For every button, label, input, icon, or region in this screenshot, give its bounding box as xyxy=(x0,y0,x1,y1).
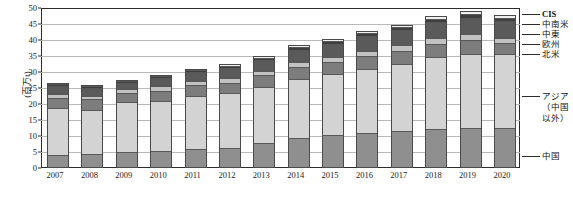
x-axis-tick-label: 2019 xyxy=(458,170,478,186)
bar-segment[interactable] xyxy=(461,41,481,55)
bar-segment[interactable] xyxy=(392,65,412,132)
bar-segment[interactable] xyxy=(495,44,515,55)
bar-stack[interactable] xyxy=(288,45,310,168)
legend-entry: （中国 xyxy=(542,103,569,112)
bar-stack[interactable] xyxy=(219,64,241,168)
bar-segment[interactable] xyxy=(186,73,206,82)
bar-segment[interactable] xyxy=(357,134,377,167)
bar-segment[interactable] xyxy=(392,52,412,65)
x-axis-tick-label: 2015 xyxy=(320,170,340,186)
chart-legend: CIS中南米中東欧州北米アジア（中国以外）中国 xyxy=(520,0,573,200)
bar-segment[interactable] xyxy=(48,87,68,95)
bar-segment[interactable] xyxy=(186,97,206,150)
bar-segment[interactable] xyxy=(151,152,171,167)
bar-segment[interactable] xyxy=(495,55,515,129)
bar-segment[interactable] xyxy=(254,144,274,167)
bar-segment[interactable] xyxy=(426,45,446,58)
bar-column[interactable] xyxy=(253,8,273,168)
bar-column[interactable] xyxy=(150,8,170,168)
bar-segment[interactable] xyxy=(117,94,137,103)
bar-column[interactable] xyxy=(356,8,376,168)
bar-stack[interactable] xyxy=(253,56,275,168)
bar-column[interactable] xyxy=(460,8,480,168)
y-axis-tick-label: 45 xyxy=(29,19,38,29)
bar-column[interactable] xyxy=(494,8,514,168)
bar-segment[interactable] xyxy=(426,130,446,167)
bar-segment[interactable] xyxy=(254,88,274,144)
bar-segment[interactable] xyxy=(323,136,343,167)
bar-segment[interactable] xyxy=(151,92,171,103)
bar-segment[interactable] xyxy=(289,80,309,139)
bar-segment[interactable] xyxy=(357,37,377,51)
bar-segment[interactable] xyxy=(495,129,515,167)
bar-segment[interactable] xyxy=(426,58,446,130)
bar-column[interactable] xyxy=(219,8,239,168)
bar-segment[interactable] xyxy=(220,69,240,79)
bar-stack[interactable] xyxy=(116,80,138,168)
bar-segment[interactable] xyxy=(48,156,68,167)
bar-segment[interactable] xyxy=(151,102,171,152)
bar-segment[interactable] xyxy=(254,61,274,72)
bar-segment[interactable] xyxy=(151,79,171,87)
legend-entry: CIS xyxy=(542,10,556,19)
bar-segment[interactable] xyxy=(289,68,309,80)
bar-segment[interactable] xyxy=(426,23,446,39)
bar-column[interactable] xyxy=(81,8,101,168)
bar-stack[interactable] xyxy=(81,85,103,168)
bar-stack[interactable] xyxy=(150,75,172,168)
bar-stack[interactable] xyxy=(425,16,447,168)
bar-stack[interactable] xyxy=(494,15,516,168)
bar-stack[interactable] xyxy=(460,11,482,168)
bar-segment[interactable] xyxy=(289,139,309,167)
bar-segment[interactable] xyxy=(323,45,343,58)
bar-stack[interactable] xyxy=(47,83,69,168)
x-axis-tick-label: 2009 xyxy=(114,170,134,186)
bar-stack[interactable] xyxy=(185,69,207,168)
bar-column[interactable] xyxy=(185,8,205,168)
bar-segment[interactable] xyxy=(82,155,102,167)
bar-segment[interactable] xyxy=(82,111,102,155)
y-axis-tick-label: 5 xyxy=(33,147,37,157)
legend-leader-line xyxy=(522,54,540,55)
bar-column[interactable] xyxy=(391,8,411,168)
bar-segment[interactable] xyxy=(357,70,377,134)
bar-segment[interactable] xyxy=(323,75,343,135)
bar-segment[interactable] xyxy=(186,86,206,97)
bar-segment[interactable] xyxy=(289,51,309,63)
bar-segment[interactable] xyxy=(186,150,206,167)
bar-segment[interactable] xyxy=(220,94,240,149)
bar-column[interactable] xyxy=(288,8,308,168)
bar-stack[interactable] xyxy=(391,25,413,168)
bar-segment[interactable] xyxy=(220,149,240,167)
bar-segment[interactable] xyxy=(82,100,102,111)
legend-entry: 中南米 xyxy=(542,20,569,29)
x-axis-tick-label: 2018 xyxy=(423,170,443,186)
bar-column[interactable] xyxy=(322,8,342,168)
bar-segment[interactable] xyxy=(392,31,412,46)
bar-segment[interactable] xyxy=(357,57,377,70)
bar-segment[interactable] xyxy=(117,153,137,167)
bar-column[interactable] xyxy=(425,8,445,168)
bar-segment[interactable] xyxy=(48,109,68,156)
y-axis-tick-label: 25 xyxy=(29,83,38,93)
bar-segment[interactable] xyxy=(495,22,515,39)
bar-segment[interactable] xyxy=(82,89,102,96)
bar-segment[interactable] xyxy=(254,76,274,88)
bar-segment[interactable] xyxy=(461,55,481,130)
bar-column[interactable] xyxy=(116,8,136,168)
legend-entry: 欧州 xyxy=(542,40,560,49)
bar-segment[interactable] xyxy=(220,84,240,95)
bar-stack[interactable] xyxy=(322,39,344,168)
y-axis-tick-label: 0 xyxy=(33,163,37,173)
bar-column[interactable] xyxy=(47,8,67,168)
bar-segment[interactable] xyxy=(392,132,412,167)
bar-segment[interactable] xyxy=(117,103,137,152)
bar-segment[interactable] xyxy=(461,129,481,167)
bar-segment[interactable] xyxy=(323,63,343,75)
bar-stack[interactable] xyxy=(356,31,378,168)
bar-segment[interactable] xyxy=(48,99,68,109)
y-axis-tick-label: 15 xyxy=(29,115,38,125)
x-axis-tick-label: 2010 xyxy=(148,170,168,186)
x-axis: 2007200820092010201120122013201420152016… xyxy=(41,170,520,186)
bar-segment[interactable] xyxy=(461,19,481,35)
